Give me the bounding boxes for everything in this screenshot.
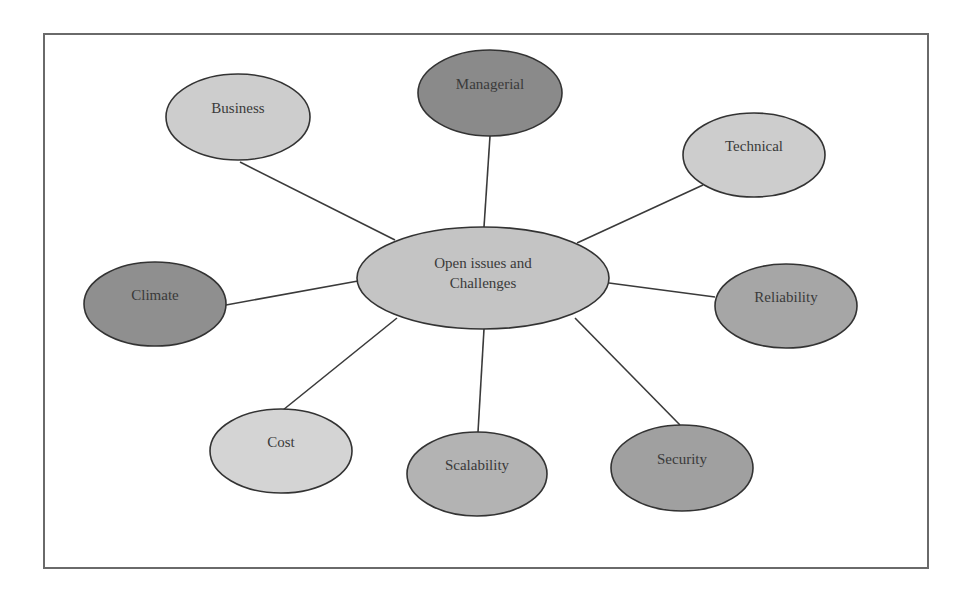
- node-climate-label: Climate: [131, 287, 179, 303]
- edge-scalability: [478, 329, 484, 432]
- node-scalability: Scalability: [407, 432, 547, 516]
- edge-managerial: [484, 136, 490, 227]
- edge-reliability: [609, 283, 715, 297]
- node-cost-ellipse: [210, 409, 352, 493]
- node-security-label: Security: [657, 451, 707, 467]
- node-cost: Cost: [210, 409, 352, 493]
- mind-map-diagram: BusinessManagerialTechnicalClimateReliab…: [0, 0, 965, 598]
- node-managerial-label: Managerial: [456, 76, 524, 92]
- node-business-label: Business: [211, 100, 265, 116]
- node-business: Business: [166, 74, 310, 160]
- node-business-ellipse: [166, 74, 310, 160]
- edge-climate: [226, 281, 358, 305]
- node-managerial-ellipse: [418, 50, 562, 136]
- node-scalability-label: Scalability: [445, 457, 510, 473]
- center-node-label-line-1: Open issues and: [434, 255, 532, 271]
- node-climate-ellipse: [84, 262, 226, 346]
- edge-technical: [577, 185, 703, 243]
- node-cost-label: Cost: [267, 434, 295, 450]
- center-node-open-issues: Open issues andChallenges: [357, 227, 609, 329]
- node-technical-ellipse: [683, 113, 825, 197]
- node-security: Security: [611, 425, 753, 511]
- node-reliability: Reliability: [715, 264, 857, 348]
- edge-security: [575, 318, 680, 425]
- node-climate: Climate: [84, 262, 226, 346]
- node-technical: Technical: [683, 113, 825, 197]
- edge-cost: [283, 318, 397, 410]
- node-scalability-ellipse: [407, 432, 547, 516]
- edge-business: [240, 162, 395, 240]
- node-managerial: Managerial: [418, 50, 562, 136]
- node-reliability-ellipse: [715, 264, 857, 348]
- node-reliability-label: Reliability: [754, 289, 818, 305]
- center-node-label-line-2: Challenges: [450, 275, 517, 291]
- node-security-ellipse: [611, 425, 753, 511]
- node-technical-label: Technical: [725, 138, 783, 154]
